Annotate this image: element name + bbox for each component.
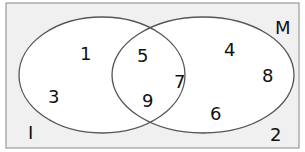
element-5: 5 bbox=[137, 45, 148, 66]
element-2: 2 bbox=[270, 124, 281, 145]
venn-diagram: 1 3 5 7 9 4 8 6 2 I M bbox=[0, 0, 305, 152]
element-6: 6 bbox=[210, 103, 221, 124]
element-4: 4 bbox=[224, 39, 235, 60]
element-7: 7 bbox=[174, 71, 185, 92]
venn-svg: 1 3 5 7 9 4 8 6 2 I M bbox=[0, 0, 305, 152]
set-m-label: M bbox=[275, 17, 291, 38]
element-3: 3 bbox=[48, 86, 59, 107]
set-i-label: I bbox=[28, 122, 33, 143]
element-8: 8 bbox=[262, 65, 273, 86]
element-9: 9 bbox=[142, 90, 153, 111]
element-1: 1 bbox=[80, 43, 91, 64]
